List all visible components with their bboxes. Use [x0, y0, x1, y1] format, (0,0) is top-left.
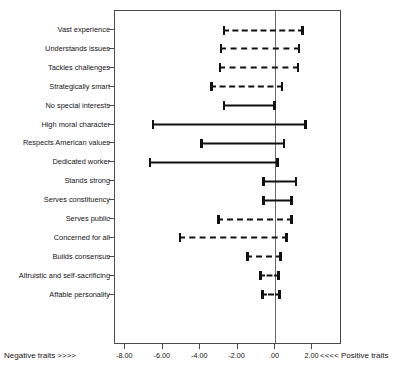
value-axis-tick-label: -8.00 — [116, 351, 132, 360]
error-bar — [246, 251, 282, 262]
category-tick — [109, 67, 114, 68]
value-axis-tick — [199, 344, 200, 349]
errorbar-left-cap-icon — [223, 101, 226, 110]
positive-traits-caption: <<<< Positive traits — [320, 351, 388, 361]
category-label: Concerned for all — [54, 232, 110, 241]
value-axis-tick-label: -4.00 — [191, 351, 207, 360]
errorbar-right-cap-icon — [278, 290, 281, 299]
errorbar-left-cap-icon — [223, 26, 226, 35]
error-bar — [220, 43, 300, 54]
error-bar-line — [179, 237, 288, 239]
errorbar-right-cap-icon — [298, 44, 301, 53]
category-tick — [109, 29, 114, 30]
category-tick — [109, 199, 114, 200]
errorbar-left-cap-icon — [210, 82, 213, 91]
category-label: High moral character — [41, 119, 110, 128]
error-bar-line — [210, 86, 283, 88]
errorbar-left-cap-icon — [152, 120, 155, 129]
category-label: Respects American values — [23, 138, 110, 147]
error-bar — [219, 62, 299, 73]
value-axis-tick-label: .00 — [269, 351, 279, 360]
error-bar — [262, 195, 293, 206]
errorbar-left-cap-icon — [200, 139, 203, 148]
category-label: Serves constituency — [44, 195, 110, 204]
category-label: Dedicated worker — [52, 157, 110, 166]
category-tick — [109, 275, 114, 276]
error-bar — [262, 176, 298, 187]
errorbar-left-cap-icon — [179, 233, 182, 242]
category-tick — [109, 237, 114, 238]
errorbar-right-cap-icon — [295, 177, 298, 186]
category-tick — [109, 180, 114, 181]
category-tick — [109, 124, 114, 125]
errorbar-right-cap-icon — [281, 82, 284, 91]
error-bar — [217, 214, 293, 225]
category-tick — [109, 105, 114, 106]
category-tick — [109, 218, 114, 219]
value-axis-tick-label: -6.00 — [154, 351, 170, 360]
error-bar — [179, 232, 288, 243]
category-label: Vast experience — [58, 25, 110, 34]
error-bar-line — [152, 124, 307, 126]
category-label: Altruistic and self-sacrificing — [19, 270, 110, 279]
category-tick — [109, 142, 114, 143]
category-label: Serves public — [66, 214, 110, 223]
error-bar — [223, 100, 276, 111]
error-bar — [259, 270, 280, 281]
category-tick — [109, 294, 114, 295]
value-axis-tick — [124, 344, 125, 349]
errorbar-left-cap-icon — [261, 290, 264, 299]
category-label: Affable personality — [49, 289, 110, 298]
category-label: Strategically smart — [49, 81, 110, 90]
error-bar-line — [262, 180, 298, 182]
plot-area — [114, 10, 341, 344]
errorbar-left-cap-icon — [220, 44, 223, 53]
category-label: Builds consensus — [52, 251, 110, 260]
errorbar-left-cap-icon — [262, 196, 265, 205]
error-bar — [261, 289, 281, 300]
error-bar-line — [219, 67, 299, 69]
errorbar-right-cap-icon — [279, 252, 282, 261]
errorbar-right-cap-icon — [283, 139, 286, 148]
error-bar-line — [223, 29, 304, 31]
category-tick — [109, 161, 114, 162]
value-axis-tick-label: -2.00 — [228, 351, 244, 360]
error-bar-line — [246, 256, 282, 258]
errorbar-right-cap-icon — [285, 233, 288, 242]
error-bar-line — [200, 142, 285, 144]
category-tick — [109, 256, 114, 257]
error-bar-line — [262, 199, 293, 201]
category-label: Understands issues — [45, 43, 110, 52]
errorbar-right-cap-icon — [290, 196, 293, 205]
errorbar-left-cap-icon — [259, 271, 262, 280]
category-label: Stands strong — [64, 176, 110, 185]
value-axis-tick — [162, 344, 163, 349]
value-axis-tick — [237, 344, 238, 349]
errorbar-right-cap-icon — [301, 26, 304, 35]
error-bar — [223, 25, 304, 36]
category-tick — [109, 48, 114, 49]
error-bar — [200, 138, 285, 149]
error-bar-line — [217, 218, 293, 220]
errorbar-left-cap-icon — [149, 158, 152, 167]
error-bar-line — [149, 161, 279, 163]
errorbar-right-cap-icon — [304, 120, 307, 129]
errorbar-right-cap-icon — [277, 271, 280, 280]
category-tick — [109, 86, 114, 87]
error-bar — [152, 119, 307, 130]
errorbar-left-cap-icon — [246, 252, 249, 261]
errorbar-left-cap-icon — [219, 63, 222, 72]
errorbar-right-cap-icon — [290, 215, 293, 224]
value-axis-tick — [274, 344, 275, 349]
error-bar-line — [220, 48, 300, 50]
errorbar-right-cap-icon — [273, 101, 276, 110]
category-label: Tackles challenges — [48, 62, 110, 71]
errorbar-left-cap-icon — [262, 177, 265, 186]
error-bar — [210, 81, 283, 92]
confidence-interval-chart: Vast experienceUnderstands issuesTackles… — [0, 0, 409, 379]
negative-traits-caption: Negative traits >>>> — [4, 351, 76, 361]
value-axis-tick-label: 2.00 — [304, 351, 318, 360]
error-bar — [149, 157, 279, 168]
category-label: No special interests — [46, 100, 111, 109]
error-bar-line — [223, 105, 276, 107]
